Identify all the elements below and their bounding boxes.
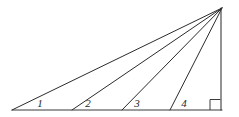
angle-label-1: 1 bbox=[37, 97, 43, 109]
figure-canvas: 1 2 3 4 bbox=[0, 0, 239, 117]
angle-label-3: 3 bbox=[133, 97, 140, 109]
geometry-figure: 1 2 3 4 bbox=[0, 0, 239, 117]
ray-hypotenuse bbox=[12, 8, 222, 110]
ray-4 bbox=[170, 8, 222, 110]
ray-3 bbox=[122, 8, 222, 110]
angle-label-4: 4 bbox=[181, 97, 187, 109]
ray-2 bbox=[72, 8, 222, 110]
angle-label-2: 2 bbox=[85, 97, 91, 109]
right-angle-icon bbox=[210, 100, 221, 111]
